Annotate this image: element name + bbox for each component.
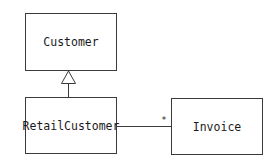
- class-invoice-label: Invoice: [193, 120, 242, 134]
- class-customer-label: Customer: [43, 35, 98, 49]
- class-customer[interactable]: Customer: [26, 14, 117, 71]
- association-edge: *: [117, 115, 172, 127]
- association-multiplicity: *: [161, 115, 166, 125]
- class-retail-customer[interactable]: RetailCustomer: [23, 98, 120, 154]
- generalization-triangle-icon: [62, 71, 76, 84]
- generalization-edge: [62, 71, 76, 97]
- class-invoice[interactable]: Invoice: [172, 99, 263, 155]
- class-retail-customer-label: RetailCustomer: [23, 119, 120, 133]
- uml-class-diagram: Customer RetailCustomer * Invoice: [0, 0, 278, 164]
